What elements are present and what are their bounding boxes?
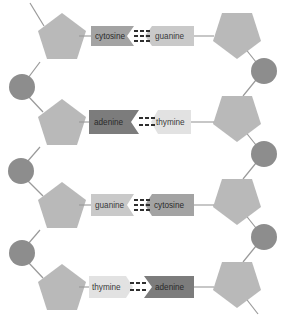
hydrogen-bond-dash bbox=[146, 30, 150, 32]
phosphate-circle-right-3 bbox=[251, 224, 277, 250]
phosphate-circle-right-2 bbox=[251, 141, 277, 167]
hydrogen-bond-dash bbox=[136, 282, 140, 284]
hydrogen-bond-dash bbox=[139, 124, 143, 126]
base-text-cytosine-1: cytosine bbox=[95, 32, 125, 41]
dna-diagram-canvas: cytosine guanine adenine thymine bbox=[0, 0, 284, 317]
phosphate-circle-left-3 bbox=[9, 240, 35, 266]
hydrogen-bond-dash bbox=[146, 199, 150, 201]
phosphate-circle-left-1 bbox=[9, 74, 35, 100]
base-text-adenine-4: adenine bbox=[155, 283, 185, 292]
base-text-cytosine-3: cytosine bbox=[154, 201, 184, 210]
hydrogen-bond-dash bbox=[146, 204, 150, 206]
hydrogen-bond-dash bbox=[151, 117, 155, 119]
hydrogen-bond-dash bbox=[151, 124, 155, 126]
hydrogen-bond-dash bbox=[130, 289, 134, 291]
phosphate-circle-right-1 bbox=[251, 58, 277, 84]
hydrogen-bond-dash bbox=[134, 209, 138, 211]
hydrogen-bond-dash bbox=[130, 282, 134, 284]
hydrogen-bond-dash bbox=[140, 30, 144, 32]
hydrogen-bonds-1 bbox=[134, 30, 150, 42]
hydrogen-bond-dash bbox=[134, 30, 138, 32]
phosphate-circle-left-2 bbox=[8, 158, 34, 184]
hydrogen-bond-dash bbox=[145, 124, 149, 126]
hydrogen-bond-dash bbox=[145, 117, 149, 119]
base-text-thymine-4: thymine bbox=[92, 283, 121, 292]
hydrogen-bond-dash bbox=[142, 289, 146, 291]
hydrogen-bond-dash bbox=[146, 209, 150, 211]
hydrogen-bond-dash bbox=[140, 204, 144, 206]
hydrogen-bond-dash bbox=[140, 199, 144, 201]
hydrogen-bond-dash bbox=[140, 209, 144, 211]
base-text-adenine-2: adenine bbox=[94, 118, 124, 127]
base-text-thymine-2: thymine bbox=[156, 118, 185, 127]
hydrogen-bond-dash bbox=[139, 117, 143, 119]
base-text-guanine-1: guanine bbox=[155, 32, 185, 41]
hydrogen-bond-dash bbox=[142, 282, 146, 284]
hydrogen-bond-dash bbox=[134, 35, 138, 37]
base-text-guanine-3: guanine bbox=[95, 201, 125, 210]
hydrogen-bonds-3 bbox=[134, 199, 150, 211]
hydrogen-bond-dash bbox=[146, 40, 150, 42]
hydrogen-bond-dash bbox=[146, 35, 150, 37]
hydrogen-bond-dash bbox=[136, 289, 140, 291]
dna-base-pairing-diagram: cytosine guanine adenine thymine bbox=[0, 0, 284, 317]
hydrogen-bond-dash bbox=[134, 199, 138, 201]
hydrogen-bond-dash bbox=[140, 35, 144, 37]
hydrogen-bond-dash bbox=[134, 204, 138, 206]
hydrogen-bond-dash bbox=[140, 40, 144, 42]
hydrogen-bond-dash bbox=[134, 40, 138, 42]
